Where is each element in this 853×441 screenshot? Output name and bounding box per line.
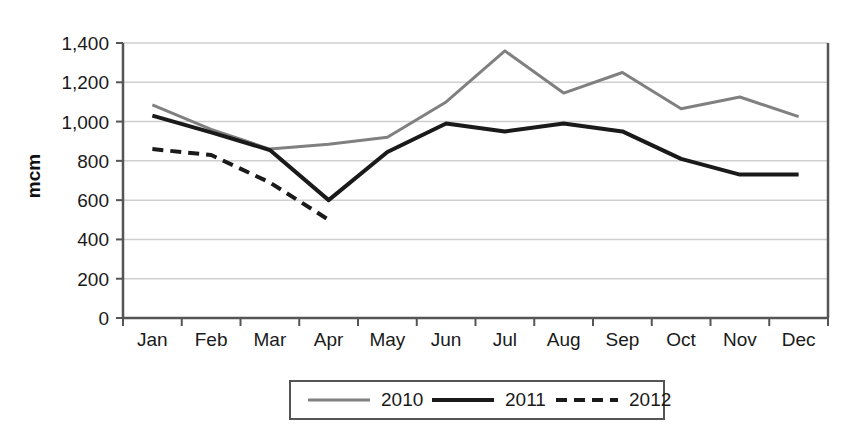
x-axis-tick-label: Feb (195, 329, 228, 350)
x-axis-tick-label: Aug (547, 329, 581, 350)
x-axis-tick-label: May (369, 329, 405, 350)
x-axis-tick-label: Mar (254, 329, 287, 350)
y-axis-tick-label: 800 (77, 151, 109, 172)
x-axis-tick-label: Sep (605, 329, 639, 350)
data-series-group (152, 51, 798, 220)
legend-label-2012[interactable]: 2012 (629, 389, 671, 410)
y-axis-tick-label: 0 (98, 308, 109, 329)
x-axis-tick-label: Oct (666, 329, 696, 350)
y-axis-tick-label: 1,200 (61, 72, 109, 93)
legend-label-2010[interactable]: 2010 (381, 389, 423, 410)
y-axis-title: mcm (23, 154, 44, 198)
y-axis-tick-label: 1,400 (61, 33, 109, 54)
series-line-2011 (152, 116, 798, 200)
x-axis-tick-label: Dec (782, 329, 816, 350)
y-axis-tick-label: 600 (77, 190, 109, 211)
y-axis-tick-label: 400 (77, 229, 109, 250)
series-line-2010 (152, 51, 798, 149)
x-axis-tick-label: Jul (493, 329, 517, 350)
legend-label-2011[interactable]: 2011 (505, 389, 546, 410)
x-axis-tick-label: Jun (431, 329, 462, 350)
y-axis-tick-label: 200 (77, 269, 109, 290)
x-axis-tick-label: Nov (723, 329, 757, 350)
y-axis-tick-labels-group: 02004006008001,0001,2001,400 (61, 33, 109, 329)
chart-legend: 201020112012 (290, 381, 671, 419)
x-axis-tick-label: Apr (314, 329, 344, 350)
series-line-2012 (152, 149, 328, 220)
chart-canvas: 02004006008001,0001,2001,400 JanFebMarAp… (0, 0, 853, 441)
y-axis-tick-label: 1,000 (61, 112, 109, 133)
x-axis-tick-label: Jan (137, 329, 168, 350)
line-chart: 02004006008001,0001,2001,400 JanFebMarAp… (0, 0, 853, 441)
x-axis-tick-labels-group: JanFebMarAprMayJunJulAugSepOctNovDec (137, 329, 815, 350)
